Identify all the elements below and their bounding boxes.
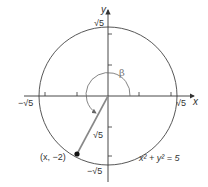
segment-length-label: √5 [93, 130, 103, 140]
y-pos-tick-label: √5 [94, 18, 104, 28]
x-pos-tick-label: √5 [176, 98, 186, 108]
circle-equation: x² + y² = 5 [138, 153, 181, 163]
x-neg-tick-label: −√5 [18, 98, 33, 108]
y-ticks [108, 34, 112, 156]
diagram-canvas: y √5 x √5 −√5 −√5 β √5 (x, −2) x² + y² =… [0, 0, 208, 187]
point-marker [74, 151, 79, 156]
angle-label-beta: β [119, 67, 125, 78]
x-axis-label: x [192, 96, 199, 107]
terminal-segment [77, 96, 108, 154]
y-neg-tick-label: −√5 [87, 166, 102, 176]
point-label: (x, −2) [40, 152, 66, 162]
y-axis-label: y [100, 4, 107, 15]
